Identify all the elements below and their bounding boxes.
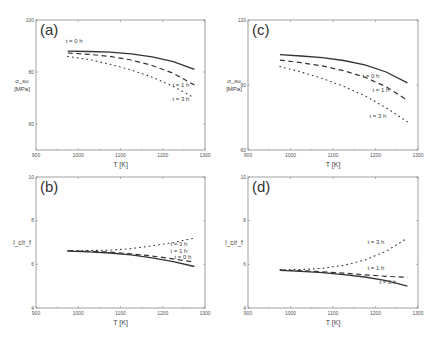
series-line-t-3-h — [280, 238, 408, 270]
y-tick-label: 8 — [31, 217, 34, 223]
y-tick-label: 100 — [26, 17, 35, 23]
x-tick-label: 900 — [32, 152, 41, 158]
series-label: t = 1 h — [367, 265, 384, 271]
y-axis-label-unit: [MPa] — [14, 86, 30, 92]
panel-d: 900100011001200130046810T [K]l_c/r_f(d)t… — [225, 174, 424, 327]
y-tick-label: 80 — [28, 69, 34, 75]
y-axis-label-symbol: σ_su — [15, 78, 28, 84]
plot-area-frame — [248, 20, 418, 150]
x-tick-label: 1200 — [157, 310, 168, 316]
panel-label: (d) — [252, 178, 270, 195]
series-line-t-0-h — [280, 55, 408, 83]
series-label: t = 0 h — [379, 279, 396, 285]
x-tick-label: 1200 — [370, 152, 381, 158]
panel-c: 90010001100120013006090120T [K]σ_su[MPa]… — [226, 17, 424, 169]
x-tick-label: 1000 — [285, 310, 296, 316]
y-tick-label: 60 — [240, 147, 246, 153]
series-label: t = 1 h — [170, 248, 187, 254]
y-tick-label: 60 — [28, 121, 34, 127]
x-tick-label: 1200 — [370, 310, 381, 316]
y-tick-label: 4 — [243, 305, 246, 311]
x-tick-label: 1000 — [73, 152, 84, 158]
y-axis-label-symbol: σ_su — [227, 78, 240, 84]
y-tick-label: 10 — [240, 174, 246, 180]
series-label: t = 3 h — [367, 239, 384, 245]
x-tick-label: 1000 — [285, 152, 296, 158]
plot-area-frame — [248, 177, 418, 308]
series-line-t-3-h — [280, 67, 408, 122]
series-label: t = 0 h — [66, 38, 83, 44]
x-axis-label: T [K] — [113, 319, 128, 327]
y-tick-label: 120 — [238, 17, 247, 23]
y-axis-label-unit: [MPa] — [226, 86, 242, 92]
y-tick-label: 10 — [28, 174, 34, 180]
y-tick-label: 4 — [31, 305, 34, 311]
x-tick-label: 900 — [32, 310, 41, 316]
series-line-t-1-h — [280, 270, 408, 277]
series-label: t = 3 h — [369, 113, 386, 119]
y-axis-label: l_c/r_f — [225, 239, 243, 247]
series-label: t = 0 h — [174, 254, 191, 260]
x-axis-label: T [K] — [326, 319, 341, 327]
x-tick-label: 1100 — [328, 152, 339, 158]
x-tick-label: 900 — [244, 152, 253, 158]
series-label: t = 1 h — [172, 82, 189, 88]
panel-label: (c) — [252, 21, 270, 38]
series-label: t = 3 h — [172, 96, 189, 102]
x-tick-label: 1300 — [199, 310, 210, 316]
y-tick-label: 6 — [31, 261, 34, 267]
series-label: t = 0 h — [362, 73, 379, 79]
series-line-t-1-h — [68, 53, 195, 85]
figure: 90010001100120013006080100T [K]σ_su[MPa]… — [0, 0, 437, 340]
x-tick-label: 1200 — [157, 152, 168, 158]
panel-b: 900100011001200130046810T [K]l_c/r_f(b)t… — [13, 174, 211, 327]
y-tick-label: 6 — [243, 261, 246, 267]
panel-label: (a) — [40, 21, 58, 38]
series-label: t = 1 h — [372, 87, 389, 93]
y-axis-label: l_c/r_f — [13, 239, 31, 247]
x-axis-label: T [K] — [326, 161, 341, 169]
x-tick-label: 1300 — [199, 152, 210, 158]
series-label: t = 3 h — [170, 241, 187, 247]
x-tick-label: 1100 — [115, 152, 126, 158]
x-tick-label: 1100 — [328, 310, 339, 316]
y-tick-label: 8 — [243, 217, 246, 223]
x-tick-label: 1000 — [73, 310, 84, 316]
panel-label: (b) — [40, 178, 58, 195]
x-tick-label: 1300 — [412, 152, 423, 158]
x-tick-label: 1300 — [412, 310, 423, 316]
x-tick-label: 1100 — [115, 310, 126, 316]
x-axis-label: T [K] — [113, 161, 128, 169]
series-line-t-1-h — [280, 60, 408, 100]
x-tick-label: 900 — [244, 310, 253, 316]
panel-a: 90010001100120013006080100T [K]σ_su[MPa]… — [14, 17, 211, 169]
